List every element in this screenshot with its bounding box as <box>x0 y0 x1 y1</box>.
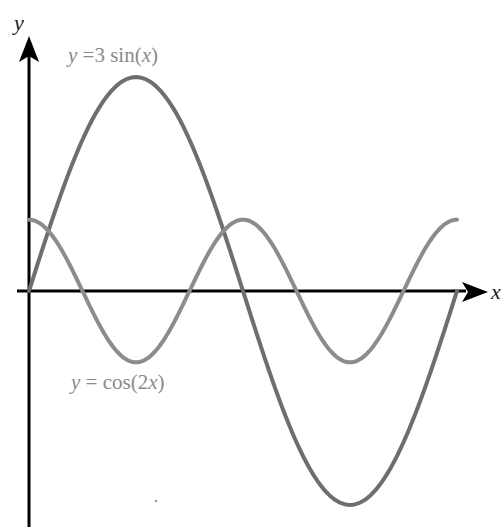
sin-curve-label: y =3 sin(x) <box>66 43 158 67</box>
x-axis-label: x <box>490 279 501 304</box>
speck <box>155 500 157 502</box>
function-plot: y x y =3 sin(x) y = cos(2x) <box>0 0 503 531</box>
cos-curve-label: y = cos(2x) <box>69 370 165 394</box>
y-axis-label: y <box>12 10 24 35</box>
